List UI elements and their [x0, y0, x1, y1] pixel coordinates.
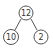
node-left: 10 — [4, 30, 19, 45]
node-right: 2 — [34, 30, 48, 44]
node-left-label: 10 — [6, 33, 16, 42]
edge-root-left — [15, 19, 21, 30]
node-right-label: 2 — [38, 33, 43, 42]
number-bond-diagram: 12 10 2 — [0, 0, 53, 49]
node-root-label: 12 — [21, 9, 31, 18]
edge-root-right — [31, 19, 37, 30]
node-root: 12 — [19, 6, 33, 20]
